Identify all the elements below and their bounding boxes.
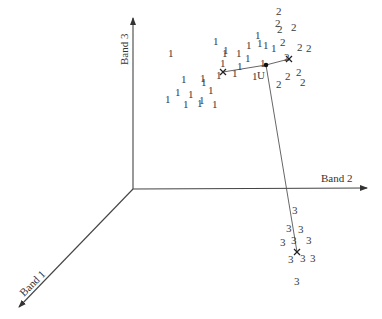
class-2-sample: 2 [300, 76, 306, 88]
class-1-sample: 1 [188, 88, 194, 100]
class-1-sample: 1 [222, 47, 228, 59]
class-3-sample: 3 [294, 275, 300, 287]
class-1-sample: 1 [246, 39, 252, 51]
class-3-sample: 3 [286, 222, 292, 234]
class-1-sample: 1 [252, 70, 258, 82]
class-1-sample: 1 [236, 47, 242, 59]
class-1-sample: 1 [175, 86, 181, 98]
class-2-sample: 2 [306, 42, 312, 54]
class-1-sample: 1 [168, 47, 174, 59]
unknown-pixel-label: U [257, 69, 265, 81]
class-1-sample: 1 [212, 98, 218, 110]
class-1-sample: 1 [255, 29, 261, 41]
class-1-sample: 1 [263, 39, 269, 51]
class-1-sample: 1 [245, 52, 251, 64]
class-3-sample: 3 [288, 253, 294, 265]
class-3-sample: 3 [292, 204, 298, 216]
class-3-sample: 3 [306, 234, 312, 246]
class-points: 1111111111111111111111111111222222222222… [165, 5, 316, 287]
band2-axis [133, 188, 367, 189]
band1-axis [19, 189, 133, 307]
class-1-sample: 1 [260, 57, 266, 69]
class-1-sample: 1 [213, 35, 219, 47]
class-2-sample: 2 [277, 23, 283, 35]
class-1-sample: 1 [271, 42, 277, 54]
class-2-sample: 2 [291, 21, 297, 33]
class-2-sample: 2 [276, 78, 282, 90]
class-1-sample: 1 [200, 72, 206, 84]
class-1-sample: 1 [237, 60, 243, 72]
class-3-sample: 3 [298, 223, 304, 235]
class-2-sample: 2 [284, 51, 290, 63]
class-2-sample: 2 [276, 5, 282, 17]
band2-axis-label: Band 2 [321, 172, 352, 184]
class-1-sample: 1 [181, 73, 187, 85]
class-2-sample: 2 [285, 70, 291, 82]
class-3-sample: 3 [300, 252, 306, 264]
class-3-sample: 3 [280, 236, 286, 248]
feature-space-diagram: Band 3 Band 2 Band 1 U 11111111111111111… [0, 0, 382, 319]
class-1-sample: 1 [216, 69, 222, 81]
class-3-sample: 3 [291, 234, 297, 246]
class-2-sample: 2 [280, 36, 286, 48]
class-1-sample: 1 [165, 93, 171, 105]
class-2-sample: 2 [297, 41, 303, 53]
band3-axis-label: Band 3 [118, 33, 130, 65]
vector-u-to-class3 [266, 65, 297, 252]
class-1-sample: 1 [208, 84, 214, 96]
class-1-sample: 1 [232, 67, 238, 79]
class-1-sample: 1 [197, 97, 203, 109]
class-3-sample: 3 [310, 252, 316, 264]
